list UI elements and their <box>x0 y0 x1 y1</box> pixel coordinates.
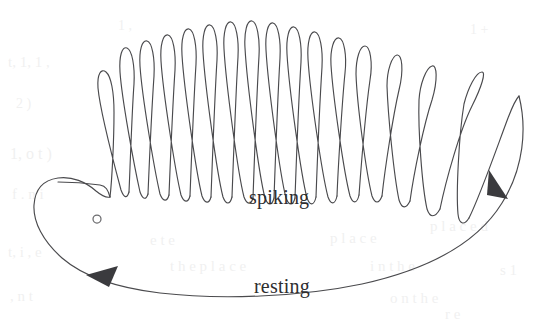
phase-portrait-canvas: spiking resting <box>0 0 554 322</box>
spike-5 <box>182 29 211 202</box>
spiking-branch-exit-stroke <box>469 96 519 218</box>
spike-10 <box>287 27 316 204</box>
spike-7 <box>224 22 253 203</box>
spike-2 <box>120 48 148 199</box>
spiking-direction-arrow-icon <box>487 170 508 199</box>
phase-portrait-figure: t, 1, 1 ,1 ,1 +1, o t )2 )f . n it, i , … <box>0 0 554 322</box>
fixed-point-marker-icon <box>93 215 101 223</box>
spike-1 <box>98 71 129 197</box>
spike-12 <box>331 38 359 202</box>
spiking-label: spiking <box>249 186 309 209</box>
spike-11 <box>308 32 337 203</box>
spike-4 <box>161 35 190 201</box>
spike-6 <box>203 25 232 203</box>
spike-9 <box>266 23 295 204</box>
spike-14 <box>382 55 410 207</box>
resting-label: resting <box>254 275 310 298</box>
spike-8 <box>245 21 274 204</box>
spike-15 <box>410 66 440 216</box>
spike-3 <box>140 41 169 200</box>
spike-13 <box>356 46 382 202</box>
